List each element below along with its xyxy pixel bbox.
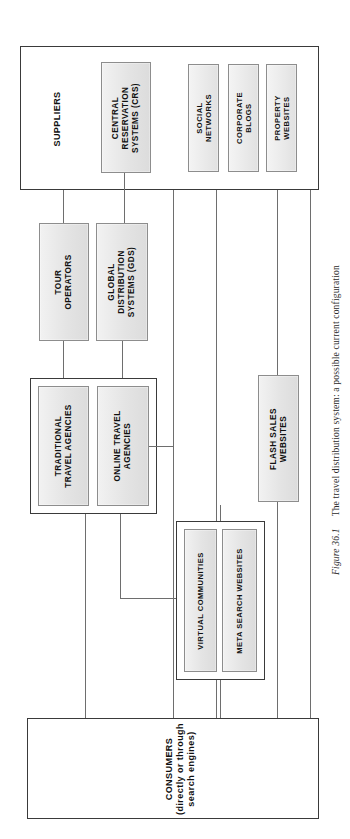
node-online-travel-agencies[interactable]: ONLINE TRAVEL AGENCIES (97, 386, 149, 506)
node-label: TRADITIONAL TRAVEL AGENCIES (54, 404, 74, 487)
consumers-label: CONSUMERS (directly or through search en… (164, 723, 197, 815)
node-label: TOUR OPERATORS (54, 254, 74, 309)
node-label: GLOBAL DISTRIBUTION SYSTEMS (GDS) (107, 247, 137, 317)
connector-ota-elbow-h (149, 446, 173, 447)
node-label: VIRTUAL COMMUNITIES (196, 552, 205, 649)
figure-caption-text: The travel distribution system: a possib… (330, 265, 341, 516)
connector-flash-to-consumers (277, 502, 278, 718)
node-flash-sales-websites[interactable]: FLASH SALES WEBSITES (258, 375, 299, 502)
connector-gds-to-agencies (122, 341, 123, 378)
connector-agencies-elbow-v (120, 514, 121, 598)
node-tour-operators[interactable]: TOUR OPERATORS (39, 223, 89, 341)
node-global-distribution-systems[interactable]: GLOBAL DISTRIBUTION SYSTEMS (GDS) (96, 223, 148, 341)
connector-trunk-to-web-group (220, 505, 221, 521)
node-virtual-communities[interactable]: VIRTUAL COMMUNITIES (184, 529, 217, 672)
figure-canvas: SUPPLIERS CENTRAL RESERVATION SYSTEMS (C… (0, 0, 350, 839)
suppliers-group-label: SUPPLIERS (52, 91, 63, 146)
node-property-websites[interactable]: PROPERTY WEBSITES (266, 64, 297, 172)
connector-suppliers-to-tour (63, 190, 64, 223)
figure-number: Figure 36.1 (330, 528, 341, 575)
node-label: SOCIAL NETWORKS (194, 94, 213, 142)
node-meta-search-websites[interactable]: META SEARCH WEBSITES (222, 529, 257, 672)
node-corporate-blogs[interactable]: CORPORATE BLOGS (228, 64, 259, 172)
node-social-networks[interactable]: SOCIAL NETWORKS (188, 64, 219, 172)
connector-crs-to-gds (124, 173, 125, 223)
node-central-reservation-systems[interactable]: CENTRAL RESERVATION SYSTEMS (CRS) (101, 62, 151, 173)
connector-suppliers-to-consumers-a (173, 190, 174, 718)
connector-agencies-to-consumers (85, 514, 86, 718)
consumers-box: CONSUMERS (directly or through search en… (27, 718, 319, 819)
node-label: FLASH SALES WEBSITES (269, 408, 289, 470)
node-label: CORPORATE BLOGS (234, 92, 253, 144)
node-label: ONLINE TRAVEL AGENCIES (113, 410, 133, 481)
connector-suppliers-to-consumers-b (310, 190, 311, 718)
node-label: PROPERTY WEBSITES (272, 95, 291, 140)
connector-tour-to-agencies (63, 341, 64, 378)
node-traditional-travel-agencies[interactable]: TRADITIONAL TRAVEL AGENCIES (38, 386, 89, 506)
node-label: META SEARCH WEBSITES (235, 548, 244, 654)
figure-caption: Figure 36.1 The travel distribution syst… (322, 0, 348, 839)
node-label: CENTRAL RESERVATION SYSTEMS (CRS) (111, 83, 141, 153)
connector-ota-elbow-v (173, 370, 174, 446)
connector-property-to-flash (277, 190, 278, 375)
connector-agencies-elbow-h (120, 598, 176, 599)
connector-web-group-to-consumers (220, 680, 221, 718)
